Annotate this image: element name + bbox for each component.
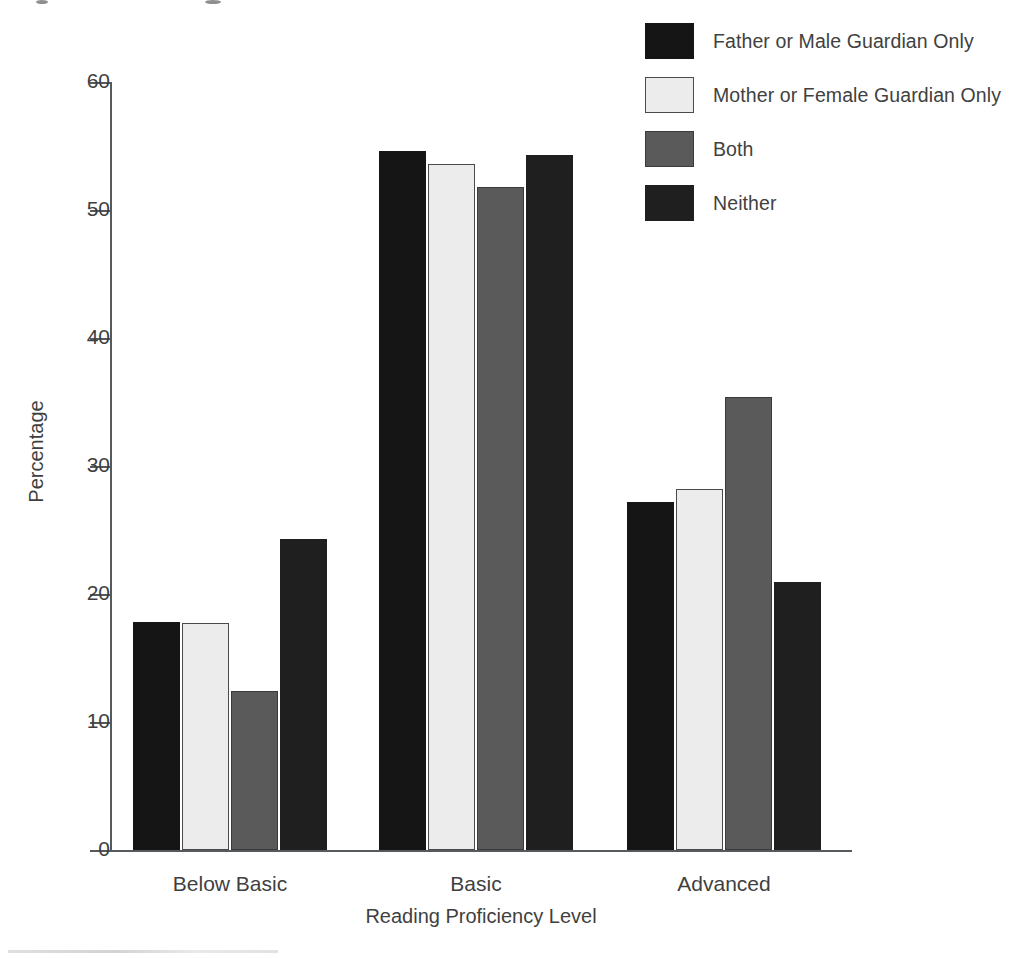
y-axis-tick: 20 (0, 594, 110, 596)
bar-chart-figure: Father or Male Guardian OnlyMother or Fe… (0, 0, 1019, 958)
x-axis-group-label: Basic (356, 872, 596, 896)
x-axis-group-label: Below Basic (110, 872, 350, 896)
bar (526, 155, 573, 850)
x-axis-line (110, 850, 852, 852)
x-axis-title: Reading Proficiency Level (110, 905, 852, 928)
bar (182, 623, 229, 850)
bar (280, 539, 327, 850)
y-axis-tick: 10 (0, 722, 110, 724)
bar (477, 187, 524, 850)
y-axis-tick-label: 20 (52, 581, 110, 605)
y-axis-tick: 60 (0, 82, 110, 84)
y-axis-tick-label: 50 (52, 197, 110, 221)
bar (428, 164, 475, 850)
plot-area: 0102030405060 Below BasicBasicAdvanced P… (0, 0, 1019, 958)
y-axis-tick-label: 10 (52, 709, 110, 733)
y-axis-tick-label: 40 (52, 325, 110, 349)
y-axis-tick-label: 0 (52, 837, 110, 861)
y-axis-tick-label: 60 (52, 69, 110, 93)
y-axis-tick: 40 (0, 338, 110, 340)
bar (774, 582, 821, 850)
bar (627, 502, 674, 850)
bar (231, 691, 278, 850)
y-axis-tick-label: 30 (52, 453, 110, 477)
bar (676, 489, 723, 850)
y-axis-tick: 50 (0, 210, 110, 212)
y-axis-tick: 0 (0, 850, 110, 852)
bar (725, 397, 772, 850)
y-axis-tick: 30 (0, 466, 110, 468)
y-axis-title: Percentage (25, 372, 48, 532)
x-axis-group-label: Advanced (604, 872, 844, 896)
bar (133, 622, 180, 850)
y-axis-line (110, 82, 112, 850)
bar (379, 151, 426, 850)
